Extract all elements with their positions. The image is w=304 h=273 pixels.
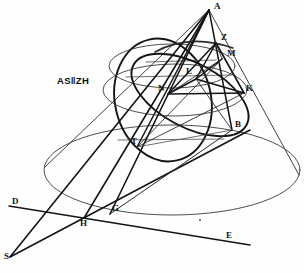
line-gb <box>110 130 232 214</box>
point-label-M: M <box>227 49 236 58</box>
line-ag <box>110 10 209 214</box>
sphere-chord-mid <box>126 75 232 77</box>
geometry-figure: A Z M L N K B T G H S D E AS‖ZH <box>0 0 304 273</box>
point-label-Z: Z <box>221 33 227 42</box>
inscribed-sphere <box>102 29 223 171</box>
point-label-B: B <box>235 120 241 129</box>
point-label-H: H <box>80 219 87 228</box>
cone-group <box>9 10 300 257</box>
point-label-K: K <box>246 84 253 93</box>
base-ellipse <box>44 125 300 215</box>
figure-drawing <box>0 0 304 273</box>
parallel-annotation: AS‖ZH <box>57 76 89 86</box>
point-label-S: S <box>4 252 9 261</box>
point-label-A: A <box>214 2 221 11</box>
line-tk <box>137 93 244 147</box>
line-sb <box>10 130 250 257</box>
point-label-T: T <box>131 137 137 146</box>
cone-left-generator <box>45 10 209 167</box>
point-label-G: G <box>112 204 119 213</box>
ink-speck <box>199 219 201 221</box>
line-as <box>10 10 209 257</box>
point-label-E: E <box>226 231 232 240</box>
point-label-L: L <box>186 67 192 76</box>
point-label-N: N <box>158 84 165 93</box>
point-label-D: D <box>12 197 19 206</box>
